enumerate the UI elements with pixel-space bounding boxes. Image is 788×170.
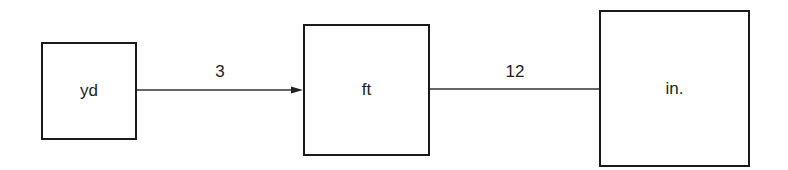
edge-label: 3	[215, 62, 224, 82]
node-ft: ft	[303, 24, 430, 156]
node-label: in.	[666, 79, 684, 99]
arrowhead-icon	[291, 87, 303, 94]
node-label: ft	[362, 80, 371, 100]
node-label: yd	[80, 81, 98, 101]
node-in: in.	[599, 10, 750, 167]
edge-label: 12	[506, 62, 525, 82]
node-yd: yd	[41, 42, 137, 140]
